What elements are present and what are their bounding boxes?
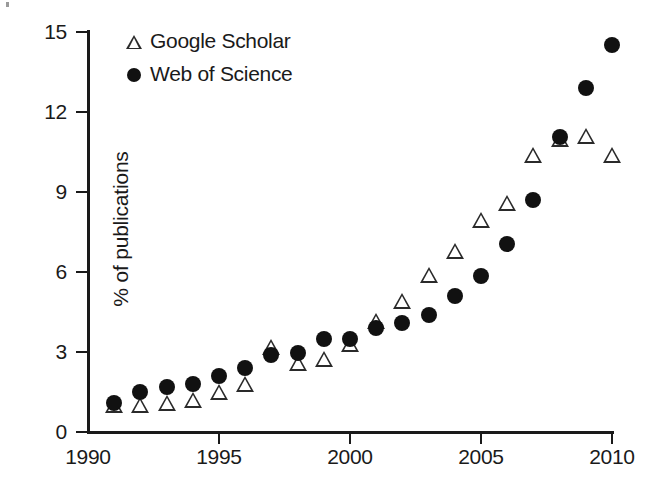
filled-circle-icon xyxy=(106,395,122,411)
y-tick-label: 0 xyxy=(56,421,67,442)
open-triangle-icon xyxy=(158,395,176,411)
open-triangle-icon xyxy=(124,30,150,52)
scan-artifact xyxy=(6,2,9,7)
open-triangle-icon xyxy=(603,147,621,163)
filled-circle-icon xyxy=(421,307,437,323)
open-triangle-icon xyxy=(236,376,254,392)
filled-circle-icon xyxy=(159,379,175,395)
y-tick-mark xyxy=(76,111,88,113)
open-triangle-icon xyxy=(393,293,411,309)
open-triangle-icon xyxy=(498,195,516,211)
filled-circle-icon xyxy=(124,63,150,85)
plot-area: % of publications xyxy=(88,32,612,432)
y-tick-label: 9 xyxy=(56,181,67,202)
filled-circle-icon xyxy=(211,368,227,384)
chart-legend: Google Scholar Web of Science xyxy=(124,24,354,90)
legend-entry-google-scholar: Google Scholar xyxy=(124,24,354,57)
filled-circle-icon xyxy=(578,80,594,96)
x-tick-label: 2000 xyxy=(310,446,390,467)
x-tick-label: 1990 xyxy=(48,446,128,467)
y-tick-mark xyxy=(76,191,88,193)
open-triangle-icon xyxy=(184,392,202,408)
y-axis-label: % of publications xyxy=(109,79,133,379)
filled-circle-icon xyxy=(185,376,201,392)
y-tick-label: 6 xyxy=(56,261,67,282)
y-tick-mark xyxy=(76,431,88,433)
x-tick-label: 1995 xyxy=(179,446,259,467)
x-tick-mark xyxy=(480,432,482,444)
filled-circle-icon xyxy=(342,331,358,347)
open-triangle-icon xyxy=(446,243,464,259)
y-tick-mark xyxy=(76,271,88,273)
y-tick-mark xyxy=(76,31,88,33)
x-tick-mark xyxy=(218,432,220,444)
legend-label-web-of-science: Web of Science xyxy=(150,62,293,86)
legend-entry-web-of-science: Web of Science xyxy=(124,57,354,90)
legend-label-google-scholar: Google Scholar xyxy=(150,29,291,53)
filled-circle-icon xyxy=(263,347,279,363)
open-triangle-icon xyxy=(315,351,333,367)
filled-circle-icon xyxy=(316,331,332,347)
open-triangle-icon xyxy=(524,147,542,163)
open-triangle-icon xyxy=(577,128,595,144)
filled-circle-icon xyxy=(473,268,489,284)
x-tick-mark xyxy=(611,432,613,444)
scatter-chart-figure: % of publications 03691215 1990199520002… xyxy=(0,0,649,479)
y-tick-label: 3 xyxy=(56,341,67,362)
x-tick-mark xyxy=(349,432,351,444)
open-triangle-icon xyxy=(472,212,490,228)
y-tick-label: 15 xyxy=(44,21,67,42)
filled-circle-icon xyxy=(552,129,568,145)
filled-circle-icon xyxy=(394,315,410,331)
filled-circle-icon xyxy=(447,288,463,304)
open-triangle-icon xyxy=(420,267,438,283)
y-tick-label: 12 xyxy=(44,101,67,122)
y-tick-mark xyxy=(76,351,88,353)
x-tick-label: 2010 xyxy=(572,446,649,467)
x-tick-label: 2005 xyxy=(441,446,521,467)
open-triangle-icon xyxy=(210,384,228,400)
filled-circle-icon xyxy=(604,37,620,53)
filled-circle-icon xyxy=(290,345,306,361)
